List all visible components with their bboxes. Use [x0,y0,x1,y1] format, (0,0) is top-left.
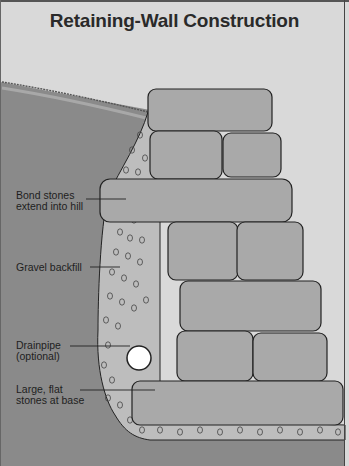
callout-base-stones: Large, flat stones at base [16,384,84,406]
callout-text: (optional) [16,351,61,362]
frame-border-right [344,0,345,466]
stone-row1 [148,89,272,131]
callout-gravel-backfill: Gravel backfill [16,262,82,273]
stone-row6-a [177,331,253,381]
base-stone [132,381,343,425]
stone-row5 [180,281,321,331]
diagram-title: Retaining-Wall Construction [0,10,349,32]
stone-row4-a [168,222,238,280]
callout-text: stones at base [16,395,84,406]
callout-drainpipe: Drainpipe (optional) [16,340,61,362]
diagram-frame: Retaining-Wall Construction Bond stones … [0,0,349,466]
callout-text: extend into hill [16,201,83,212]
stone-row4-b [237,222,303,280]
frame-border-left [0,0,1,466]
callout-bond-stones: Bond stones extend into hill [16,190,83,212]
frame-border-top [0,0,349,2]
ground [0,440,345,466]
stone-row2-a [150,131,222,179]
callout-text: Gravel backfill [16,262,82,273]
drainpipe [127,346,151,370]
stone-row2-b [223,133,281,177]
stone-row6-b [253,333,327,381]
bond-stone [100,179,292,222]
